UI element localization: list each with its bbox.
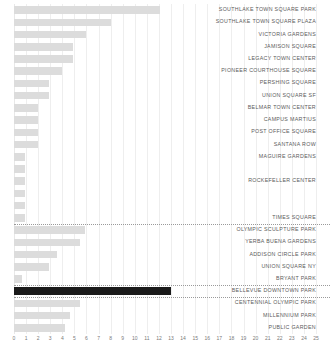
x-tick-label: 23 [289, 336, 295, 341]
category-label: MILLENNIUM PARK [263, 313, 316, 318]
x-tick-label: 13 [168, 336, 174, 341]
x-tick-label: 11 [144, 336, 149, 341]
category-label: JAMISON SQUARE [264, 44, 316, 49]
category-label: VICTORIA GARDENS [259, 32, 316, 37]
x-tick-label: 3 [49, 336, 52, 341]
x-tick-label: 0 [13, 336, 16, 341]
category-label: MAGUIRE GARDENS [259, 154, 316, 159]
x-tick-label: 19 [241, 336, 247, 341]
x-tick-label: 2 [37, 336, 40, 341]
category-label: BELMAR TOWN CENTER [248, 105, 316, 110]
x-tick-label: 14 [180, 336, 186, 341]
x-tick-label: 25 [313, 336, 319, 341]
x-tick-label: 22 [277, 336, 283, 341]
x-tick-label: 15 [192, 336, 198, 341]
x-tick-label: 18 [229, 336, 235, 341]
category-label: LEGACY TOWN CENTER [248, 56, 316, 61]
x-tick-label: 17 [217, 336, 223, 341]
category-label: ADDISON CIRCLE PARK [249, 252, 316, 257]
x-tick-label: 16 [204, 336, 210, 341]
category-label: PERSHING SQUARE [260, 80, 316, 85]
x-tick-label: 9 [121, 336, 124, 341]
category-label: OLYMPIC SCULPTURE PARK [236, 227, 316, 232]
x-tick-label: 20 [253, 336, 259, 341]
category-label: UNION SQUARE NY [261, 264, 316, 269]
x-tick-label: 6 [85, 336, 88, 341]
separator-line [14, 297, 330, 298]
category-label: PIONEER COURTHOUSE SQUARE [221, 68, 316, 73]
horizontal-bar-chart: SOUTHLAKE TOWN SQUARE PARKSOUTHLAKE TOWN… [0, 0, 330, 349]
category-label: UNION SQUARE SF [262, 93, 316, 98]
separator-line [14, 285, 330, 286]
x-tick-label: 24 [301, 336, 307, 341]
x-axis: 0123456789101112131415161718192021222324… [14, 336, 316, 346]
category-label: BRYANT PARK [276, 276, 316, 281]
category-label: YERBA BUENA GARDENS [245, 239, 316, 244]
category-label: CENTENNIAL OLYMPIC PARK [235, 300, 316, 305]
x-tick-label: 21 [265, 336, 271, 341]
separator-line [14, 224, 330, 225]
category-label: POST OFFICE SQUARE [251, 129, 316, 134]
category-label: SOUTHLAKE TOWN SQUARE PLAZA [216, 19, 316, 24]
category-label: SANTANA ROW [274, 142, 316, 147]
x-tick-label: 10 [132, 336, 138, 341]
x-tick-label: 12 [156, 336, 162, 341]
category-label: ROCKEFELLER CENTER [248, 178, 316, 183]
x-tick-label: 1 [25, 336, 28, 341]
category-label: BELLEVUE DOWNTOWN PARK [232, 288, 316, 293]
x-tick-label: 8 [109, 336, 112, 341]
category-label: CAMPUS MARTIUS [264, 117, 316, 122]
category-label: TIMES SQUARE [272, 215, 316, 220]
x-tick-label: 7 [97, 336, 100, 341]
category-label: PUBLIC GARDEN [269, 325, 316, 330]
category-label: SOUTHLAKE TOWN SQUARE PARK [219, 7, 316, 12]
x-tick-label: 5 [73, 336, 76, 341]
x-tick-label: 4 [61, 336, 64, 341]
